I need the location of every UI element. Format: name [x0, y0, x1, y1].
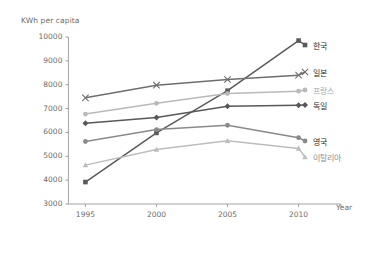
legend-item-4: 영국 — [313, 136, 327, 147]
legend-item-3: 독일 — [313, 100, 327, 111]
y-tick-label: 7000 — [32, 104, 62, 113]
data-point-marker — [153, 114, 159, 120]
line-chart: KWh per capita Year 30004000500060007000… — [0, 0, 366, 258]
legend-leader-line — [299, 148, 305, 157]
series-line — [85, 91, 298, 114]
series-line — [85, 141, 298, 165]
x-tick-label: 2010 — [281, 210, 317, 219]
data-point-marker — [303, 88, 308, 93]
series-line — [85, 125, 298, 141]
data-point-marker — [225, 123, 230, 128]
legend-item-0: 한국 — [313, 40, 327, 51]
data-point-marker — [303, 139, 308, 144]
data-point-marker — [83, 139, 88, 144]
legend-item-2: 프랑스 — [313, 85, 334, 96]
x-tick-label: 2000 — [138, 210, 174, 219]
legend-item-1: 일본 — [313, 67, 327, 78]
data-point-marker — [225, 91, 230, 96]
y-tick-label: 9000 — [32, 56, 62, 65]
y-tick-label: 4000 — [32, 175, 62, 184]
y-tick-label: 3000 — [32, 199, 62, 208]
series-line — [85, 75, 298, 98]
series-line — [85, 105, 298, 123]
y-tick-label: 8000 — [32, 80, 62, 89]
y-tick-label: 10000 — [32, 32, 62, 41]
data-point-marker — [303, 43, 308, 48]
x-tick-label: 1995 — [67, 210, 103, 219]
legend-item-5: 이탈리아 — [313, 152, 341, 163]
x-tick-label: 2005 — [210, 210, 246, 219]
y-tick-label: 5000 — [32, 151, 62, 160]
y-tick-label: 6000 — [32, 127, 62, 136]
data-point-marker — [154, 101, 159, 106]
data-point-marker — [302, 102, 308, 108]
data-point-marker — [225, 103, 231, 109]
data-point-marker — [83, 112, 88, 117]
data-point-marker — [154, 127, 159, 132]
data-point-marker — [82, 120, 88, 126]
data-point-marker — [83, 180, 88, 185]
